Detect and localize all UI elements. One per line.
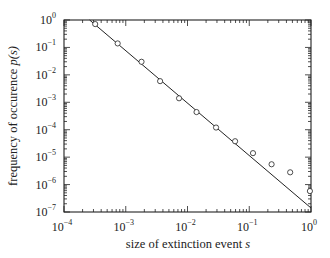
y-tick-labels: 10−710−610−510−410−310−210−1100 xyxy=(35,11,56,219)
data-point xyxy=(250,151,255,156)
x-axis-label: size of extinction event s xyxy=(126,237,250,251)
tick-label: 10−6 xyxy=(35,176,56,192)
data-point xyxy=(213,125,218,130)
data-point xyxy=(233,139,238,144)
data-point xyxy=(115,41,120,46)
axis-ticks xyxy=(64,20,311,212)
data-point xyxy=(158,79,163,84)
data-point xyxy=(269,162,274,167)
y-axis-label: frequency of occurence p(s) xyxy=(6,46,20,186)
fit-line xyxy=(90,20,311,208)
data-point xyxy=(307,188,312,193)
tick-label: 10−7 xyxy=(35,203,56,219)
tick-label: 100 xyxy=(301,218,317,234)
tick-label: 10−5 xyxy=(35,148,56,164)
x-tick-labels: 10−410−310−210−1100 xyxy=(52,218,317,234)
tick-label: 10−1 xyxy=(237,218,258,234)
data-point xyxy=(288,170,293,175)
tick-label: 10−3 xyxy=(35,93,56,109)
tick-label: 10−1 xyxy=(35,38,56,54)
data-point xyxy=(93,21,98,26)
plot-frame xyxy=(64,20,311,212)
data-point xyxy=(176,96,181,101)
tick-label: 10−4 xyxy=(52,218,73,234)
data-point xyxy=(139,59,144,64)
tick-label: 10−3 xyxy=(113,218,134,234)
tick-label: 10−4 xyxy=(35,121,56,137)
tick-label: 10−2 xyxy=(35,66,56,82)
log-log-scatter-chart: 10−410−310−210−1100 10−710−610−510−410−3… xyxy=(0,0,330,258)
tick-label: 100 xyxy=(40,11,56,27)
tick-label: 10−2 xyxy=(175,218,196,234)
data-points xyxy=(93,21,313,193)
data-point xyxy=(194,109,199,114)
